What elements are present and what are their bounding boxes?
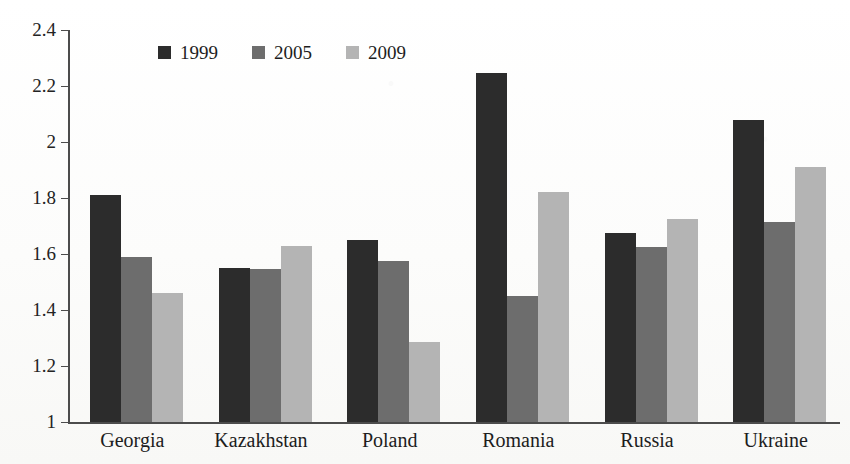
- y-axis-tick: [61, 366, 68, 367]
- bar-ukraine-2005: [764, 222, 795, 422]
- category-label-poland: Poland: [325, 428, 454, 452]
- legend-swatch-icon-2005: [252, 46, 265, 59]
- y-axis-tick-label: 2.2: [10, 76, 56, 95]
- bar-russia-2005: [636, 247, 667, 422]
- y-axis-tick-label: 1.8: [10, 188, 56, 207]
- category-label-romania: Romania: [454, 428, 583, 452]
- plot-area: [68, 30, 840, 424]
- bar-poland-2009: [409, 342, 440, 422]
- y-axis-tick: [61, 86, 68, 87]
- bar-poland-1999: [347, 240, 378, 422]
- bar-romania-1999: [476, 73, 507, 422]
- bar-russia-2009: [667, 219, 698, 422]
- y-axis-tick: [61, 254, 68, 255]
- y-axis-tick-label: 2.4: [10, 20, 56, 39]
- legend-label: 1999: [180, 43, 218, 62]
- category-label-ukraine: Ukraine: [711, 428, 840, 452]
- bar-georgia-2009: [152, 293, 183, 422]
- category-label-russia: Russia: [583, 428, 712, 452]
- bar-georgia-2005: [121, 257, 152, 422]
- legend-swatch-icon-1999: [158, 46, 171, 59]
- y-axis-tick: [61, 198, 68, 199]
- x-axis-category-labels: GeorgiaKazakhstanPolandRomaniaRussiaUkra…: [68, 428, 840, 458]
- legend-swatch-icon-2009: [346, 46, 359, 59]
- bars-layer: [68, 30, 840, 422]
- y-axis-tick-label: 1.2: [10, 356, 56, 375]
- bar-ukraine-2009: [795, 167, 826, 422]
- bar-poland-2005: [378, 261, 409, 422]
- chart-legend: 199920052009: [158, 43, 406, 62]
- y-axis-tick-label: 1: [10, 412, 56, 431]
- bar-kazakhstan-2009: [281, 246, 312, 422]
- category-label-georgia: Georgia: [68, 428, 197, 452]
- y-axis-tick: [61, 30, 68, 31]
- y-axis-tick-labels: 2.42.221.81.61.41.21: [0, 30, 56, 424]
- bar-russia-1999: [605, 233, 636, 422]
- y-axis-tick-label: 1.4: [10, 300, 56, 319]
- bar-romania-2009: [538, 192, 569, 422]
- bar-chart: 2.42.221.81.61.41.21 199920052009 Georgi…: [0, 0, 850, 464]
- bar-georgia-1999: [90, 195, 121, 422]
- y-axis-tick-label: 2: [10, 132, 56, 151]
- y-axis-tick: [61, 142, 68, 143]
- legend-item-2009: 2009: [346, 43, 406, 62]
- category-label-kazakhstan: Kazakhstan: [197, 428, 326, 452]
- legend-label: 2005: [274, 43, 312, 62]
- y-axis-tick-label: 1.6: [10, 244, 56, 263]
- y-axis-tick: [61, 310, 68, 311]
- legend-label: 2009: [368, 43, 406, 62]
- bar-ukraine-1999: [733, 120, 764, 422]
- bar-kazakhstan-2005: [250, 269, 281, 422]
- y-axis-tick: [61, 422, 68, 423]
- legend-item-2005: 2005: [252, 43, 312, 62]
- bar-kazakhstan-1999: [219, 268, 250, 422]
- legend-item-1999: 1999: [158, 43, 218, 62]
- x-axis-line: [68, 422, 840, 424]
- bar-romania-2005: [507, 296, 538, 422]
